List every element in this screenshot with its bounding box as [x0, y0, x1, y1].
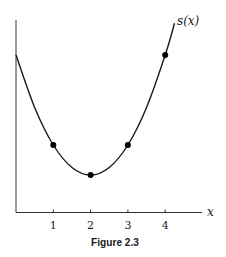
data-point: [50, 142, 56, 148]
x-tick-label: 4: [162, 219, 169, 232]
x-tick-label: 3: [124, 219, 131, 232]
x-axis-tick-labels: 1234: [50, 219, 169, 232]
figure-plot: 1234 x s(x): [0, 0, 226, 257]
marked-points: [50, 52, 168, 178]
data-point: [125, 142, 131, 148]
x-axis-label: x: [207, 205, 214, 219]
data-point: [162, 52, 168, 58]
curve-label: s(x): [177, 14, 200, 28]
x-tick-label: 2: [87, 219, 94, 232]
x-tick-label: 1: [50, 219, 57, 232]
caption-text: Figure 2.3: [91, 236, 139, 248]
data-point: [88, 172, 94, 178]
curve-s-of-x: [16, 23, 175, 175]
figure-caption: Figure 2.3: [9, 236, 217, 248]
